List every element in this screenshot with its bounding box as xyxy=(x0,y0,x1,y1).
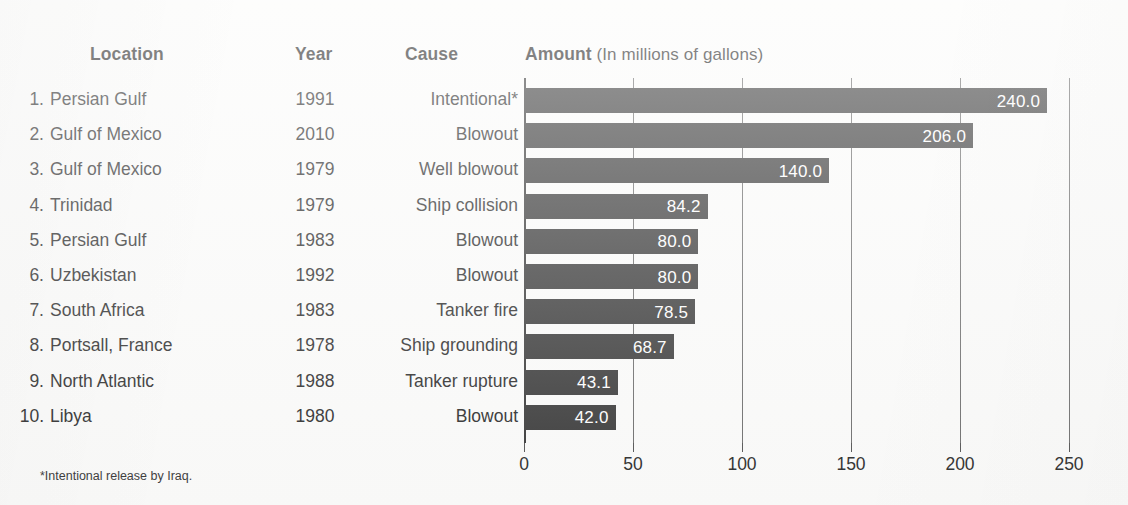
row-cause: Blowout xyxy=(318,230,518,251)
row-cause: Well blowout xyxy=(318,159,518,180)
bar: 78.5 xyxy=(524,299,695,324)
x-axis: 050100150200250 xyxy=(524,443,1069,483)
row-cause: Tanker rupture xyxy=(318,371,518,392)
row-location: Persian Gulf xyxy=(50,230,146,251)
row-rank: 7. xyxy=(0,300,44,321)
x-tick-50 xyxy=(633,443,634,452)
x-tick-label: 100 xyxy=(727,454,756,475)
x-tick-0 xyxy=(524,443,525,452)
bar: 43.1 xyxy=(524,370,618,395)
row-cause: Blowout xyxy=(318,406,518,427)
column-header-amount: Amount (In millions of gallons) xyxy=(525,44,763,65)
row-location: Libya xyxy=(50,406,92,427)
column-header-amount-unit: (In millions of gallons) xyxy=(592,45,764,64)
row-location: Persian Gulf xyxy=(50,89,146,110)
bar-value-label: 42.0 xyxy=(575,409,609,426)
gridline-250 xyxy=(1069,78,1070,443)
row-location: Gulf of Mexico xyxy=(50,124,162,145)
table-row: 6.Uzbekistan1992Blowout xyxy=(0,265,520,289)
row-rank: 2. xyxy=(0,124,44,145)
x-tick-label: 50 xyxy=(623,454,642,475)
x-tick-label: 150 xyxy=(836,454,865,475)
bar: 68.7 xyxy=(524,334,674,359)
row-rank: 10. xyxy=(0,406,44,427)
table-row: 9.North Atlantic1988Tanker rupture xyxy=(0,371,520,395)
table-row: 2.Gulf of Mexico2010Blowout xyxy=(0,124,520,148)
row-location: Uzbekistan xyxy=(50,265,137,286)
row-location: Gulf of Mexico xyxy=(50,159,162,180)
row-rank: 3. xyxy=(0,159,44,180)
bar: 42.0 xyxy=(524,405,616,430)
footnote: *Intentional release by Iraq. xyxy=(40,469,192,483)
bar-value-label: 80.0 xyxy=(658,268,692,285)
x-tick-250 xyxy=(1069,443,1070,452)
row-cause: Intentional* xyxy=(318,89,518,110)
bar-value-label: 84.2 xyxy=(667,198,701,215)
row-location: Portsall, France xyxy=(50,335,173,356)
row-rank: 4. xyxy=(0,195,44,216)
x-tick-200 xyxy=(960,443,961,452)
table-row: 1.Persian Gulf1991Intentional* xyxy=(0,89,520,113)
row-cause: Ship grounding xyxy=(318,335,518,356)
bar-value-label: 80.0 xyxy=(658,233,692,250)
bar: 80.0 xyxy=(524,229,698,254)
column-header-year: Year xyxy=(295,44,332,65)
column-header-amount-main: Amount xyxy=(525,44,592,64)
x-tick-label: 200 xyxy=(945,454,974,475)
table-row: 5.Persian Gulf1983Blowout xyxy=(0,230,520,254)
column-header-location: Location xyxy=(90,44,164,65)
row-rank: 9. xyxy=(0,371,44,392)
plot-area: 240.0206.0140.084.280.080.078.568.743.14… xyxy=(524,78,1069,443)
row-cause: Tanker fire xyxy=(318,300,518,321)
bar-value-label: 68.7 xyxy=(633,338,667,355)
table-row: 7.South Africa1983Tanker fire xyxy=(0,300,520,324)
bar-value-label: 43.1 xyxy=(577,374,611,391)
row-rank: 1. xyxy=(0,89,44,110)
table-row: 10.Libya1980Blowout xyxy=(0,406,520,430)
bar: 240.0 xyxy=(524,88,1047,113)
row-cause: Blowout xyxy=(318,124,518,145)
bar: 140.0 xyxy=(524,158,829,183)
table-row: 4.Trinidad1979Ship collision xyxy=(0,195,520,219)
row-cause: Ship collision xyxy=(318,195,518,216)
x-tick-100 xyxy=(742,443,743,452)
row-rank: 5. xyxy=(0,230,44,251)
x-tick-label: 0 xyxy=(519,454,529,475)
x-tick-label: 250 xyxy=(1054,454,1083,475)
bar: 84.2 xyxy=(524,194,708,219)
column-header-cause: Cause xyxy=(405,44,458,65)
table-row: 8.Portsall, France1978Ship grounding xyxy=(0,335,520,359)
oil-spill-bar-chart-figure: Location Year Cause Amount (In millions … xyxy=(0,0,1128,505)
row-location: Trinidad xyxy=(50,195,113,216)
bar-value-label: 240.0 xyxy=(997,92,1041,109)
bar-value-label: 140.0 xyxy=(779,162,823,179)
row-location: North Atlantic xyxy=(50,371,154,392)
x-tick-150 xyxy=(851,443,852,452)
bar-value-label: 206.0 xyxy=(923,127,967,144)
row-rank: 8. xyxy=(0,335,44,356)
bar: 206.0 xyxy=(524,123,973,148)
bar: 80.0 xyxy=(524,264,698,289)
table-row: 3.Gulf of Mexico1979Well blowout xyxy=(0,159,520,183)
row-location: South Africa xyxy=(50,300,144,321)
bar-value-label: 78.5 xyxy=(654,303,688,320)
row-cause: Blowout xyxy=(318,265,518,286)
row-rank: 6. xyxy=(0,265,44,286)
